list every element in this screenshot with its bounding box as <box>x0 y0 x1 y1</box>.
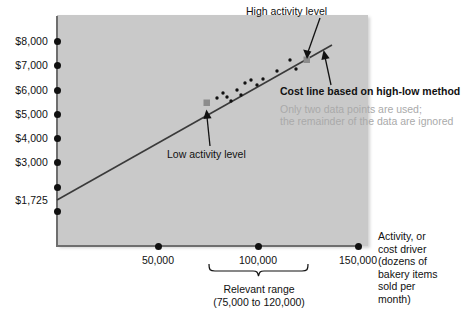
cost-line-arrow <box>321 50 331 85</box>
data-point <box>261 77 264 80</box>
x-axis-title-line-5: sold per <box>378 280 470 293</box>
data-point <box>243 81 246 84</box>
x-axis-title-line-6: month) <box>378 293 470 306</box>
data-point <box>294 67 297 70</box>
x-axis-title: Activity, or cost driver (dozens of bake… <box>378 230 470 306</box>
data-point <box>255 83 258 86</box>
data-point <box>249 78 252 81</box>
x-axis-title-line-4: bakery items <box>378 268 470 281</box>
low-activity-marker <box>204 100 211 107</box>
chart-figure: $8,000 $7,000 $6,000 $5,000 $4,000 $3,00… <box>0 0 471 316</box>
x-axis-title-line-2: cost driver <box>378 243 470 256</box>
annotation-high-activity-level: High activity level <box>246 5 327 18</box>
annotation-low-activity-level: Low activity level <box>167 148 246 161</box>
relevant-range-caption-line-2: (75,000 to 120,000) <box>169 296 349 309</box>
x-axis-title-line-1: Activity, or <box>378 230 470 243</box>
low-activity-arrow <box>203 110 211 147</box>
data-point <box>239 93 242 96</box>
data-point <box>235 88 238 91</box>
annotation-cost-line: Cost line based on high-low method <box>280 85 460 98</box>
data-point <box>229 99 232 102</box>
x-axis-title-line-3: (dozens of <box>378 255 470 268</box>
annotation-note-line-2: the remainder of the data are ignored <box>280 115 453 128</box>
data-point <box>288 58 291 61</box>
data-point <box>225 95 228 98</box>
data-point <box>275 69 278 72</box>
relevant-range-caption-line-1: Relevant range <box>169 283 349 296</box>
data-point <box>215 96 218 99</box>
relevant-range-bracket <box>209 264 308 276</box>
data-point <box>221 91 224 94</box>
